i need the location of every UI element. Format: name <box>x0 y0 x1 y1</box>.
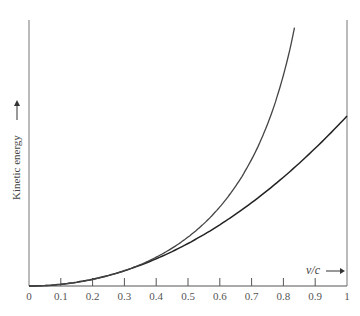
x-ticks: 00.10.20.30.40.50.60.70.80.91 <box>26 278 350 302</box>
kinetic-energy-chart: 00.10.20.30.40.50.60.70.80.91 v/c Kineti… <box>0 0 360 316</box>
relativistic-curve <box>29 28 295 286</box>
svg-text:0.4: 0.4 <box>149 290 163 302</box>
svg-text:1: 1 <box>344 290 350 302</box>
svg-text:0.3: 0.3 <box>118 290 132 302</box>
y-axis-label: Kinetic energy <box>10 135 22 200</box>
svg-text:0: 0 <box>26 290 32 302</box>
svg-text:0.9: 0.9 <box>308 290 322 302</box>
svg-text:0.6: 0.6 <box>213 290 227 302</box>
svg-text:0.8: 0.8 <box>277 290 291 302</box>
classical-curve <box>29 116 347 286</box>
svg-text:0.1: 0.1 <box>54 290 68 302</box>
y-arrow-head-icon <box>14 100 20 106</box>
svg-text:0.7: 0.7 <box>245 290 259 302</box>
x-axis-label: v/c <box>306 263 321 277</box>
svg-text:0.2: 0.2 <box>86 290 100 302</box>
svg-text:0.5: 0.5 <box>181 290 195 302</box>
x-arrow-head-icon <box>340 268 345 274</box>
